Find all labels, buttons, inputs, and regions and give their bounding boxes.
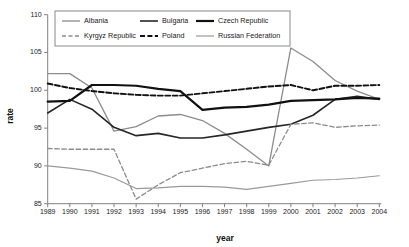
series-line-kyrgyz-republic (48, 123, 380, 199)
line-chart: 8590951001051101989199019911992199319941… (0, 0, 409, 247)
x-tick-label: 2004 (372, 208, 388, 215)
legend-label-czech-republic[interactable]: Czech Republic (218, 16, 269, 25)
x-tick-label: 1994 (150, 208, 166, 215)
x-tick-label: 1990 (62, 208, 78, 215)
x-tick-label: 1991 (84, 208, 100, 215)
x-tick-label: 1995 (173, 208, 189, 215)
x-tick-label: 2003 (349, 208, 365, 215)
x-tick-label: 1992 (106, 208, 122, 215)
y-tick-label: 110 (31, 11, 42, 18)
y-tick-label: 100 (30, 86, 42, 93)
x-tick-label: 1998 (239, 208, 255, 215)
legend-label-bulgaria[interactable]: Bulgaria (162, 16, 188, 25)
series-line-russian-federation (48, 166, 380, 189)
x-tick-label: 1999 (261, 208, 277, 215)
x-tick-label: 1996 (195, 208, 211, 215)
y-tick-label: 105 (30, 48, 42, 55)
y-tick-label: 90 (34, 162, 42, 169)
y-tick-label: 95 (34, 124, 42, 131)
x-tick-label: 2002 (327, 208, 343, 215)
x-tick-label: 1997 (217, 208, 233, 215)
chart-legend[interactable]: AlbaniaBulgariaCzech RepublicKyrgyz Repu… (55, 11, 290, 46)
x-tick-label: 1993 (128, 208, 144, 215)
legend-label-albania[interactable]: Albania (84, 16, 108, 25)
legend-label-russian-federation[interactable]: Russian Federation (218, 31, 280, 40)
y-axis-title: rate (5, 108, 15, 124)
series-line-bulgaria (48, 96, 380, 138)
x-tick-label: 2001 (305, 208, 321, 215)
legend-label-poland[interactable]: Poland (162, 31, 184, 40)
series-lines (48, 48, 380, 199)
chart-container: 8590951001051101989199019911992199319941… (0, 0, 409, 247)
x-tick-label: 1989 (40, 208, 56, 215)
x-axis-title: year (216, 233, 234, 243)
series-line-albania (48, 48, 380, 166)
legend-label-kyrgyz-republic[interactable]: Kyrgyz Republic (84, 31, 136, 40)
y-tick-label: 85 (34, 200, 42, 207)
x-tick-label: 2000 (283, 208, 299, 215)
